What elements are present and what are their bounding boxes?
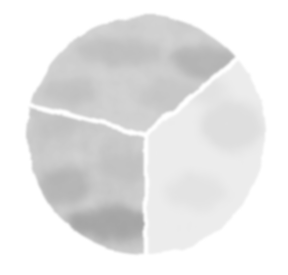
pie-slices-group <box>27 16 265 256</box>
slice-3-percent: 26.5% <box>4 53 22 59</box>
slice-1-label: Slice 1 <box>4 13 23 19</box>
pie-chart-figure: Slice 1 36.1% Slice 2 37.4% Slice 3 26.5… <box>0 0 288 275</box>
slice-2-percent: 37.4% <box>4 37 22 43</box>
pie-chart-canvas: Slice 1 36.1% Slice 2 37.4% Slice 3 26.5… <box>0 0 288 275</box>
slice-3-label: Slice 3 <box>4 45 23 51</box>
slice-2-label: Slice 2 <box>4 29 23 35</box>
slice-1-percent: 36.1% <box>4 21 22 27</box>
